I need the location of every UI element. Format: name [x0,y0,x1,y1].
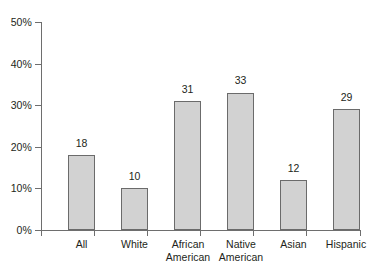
x-axis-category-label-white-line1: White [107,238,162,251]
y-axis-tick-label-20: 20% [0,142,32,153]
x-axis-category-label-african-american: African American [158,238,218,263]
bar-white [121,188,148,230]
x-axis-category-label-hispanic-line1: Hispanic [316,238,370,251]
x-axis-category-label-asian: Asian [266,238,321,251]
bar-value-native-american: 33 [217,75,264,86]
y-axis-line [41,22,42,231]
x-axis-line [41,230,361,231]
bar-value-white: 10 [111,171,158,182]
x-axis-tick-mark-5 [306,231,307,236]
x-axis-tick-mark-1 [94,231,95,236]
x-axis-category-label-native-american: Native American [211,238,271,263]
bar-value-african-american: 31 [164,84,211,95]
x-axis-tick-mark-6 [360,231,361,236]
x-axis-tick-mark-4 [253,231,254,236]
bar-native-american [227,93,254,230]
x-axis-tick-mark-3 [200,231,201,236]
x-axis-category-label-all: All [54,238,109,251]
x-axis-category-label-african-american-line1: African [158,238,218,251]
x-axis-category-label-native-american-line1: Native [211,238,271,251]
x-axis-category-label-white: White [107,238,162,251]
y-axis-tick-label-50: 50% [0,17,32,28]
x-axis-category-label-all-line1: All [54,238,109,251]
y-axis-tick-label-30: 30% [0,100,32,111]
x-axis-category-label-native-american-line2: American [211,251,271,264]
x-axis-tick-mark-0 [41,231,42,236]
bar-african-american [174,101,201,230]
bar-value-all: 18 [58,138,105,149]
bar-chart: 50% 40% 30% 20% 10% 0% 18 10 31 33 12 29… [0,0,370,267]
bar-all [68,155,95,230]
y-axis-tick-label-40: 40% [0,59,32,70]
bar-value-hispanic: 29 [323,92,370,103]
x-axis-category-label-hispanic: Hispanic [316,238,370,251]
x-axis-category-label-african-american-line2: American [158,251,218,264]
x-axis-category-label-asian-line1: Asian [266,238,321,251]
bar-value-asian: 12 [270,163,317,174]
bar-asian [280,180,307,230]
y-axis-tick-label-10: 10% [0,183,32,194]
y-axis-tick-label-0: 0% [0,225,32,236]
x-axis-tick-mark-2 [147,231,148,236]
bar-hispanic [333,109,360,230]
